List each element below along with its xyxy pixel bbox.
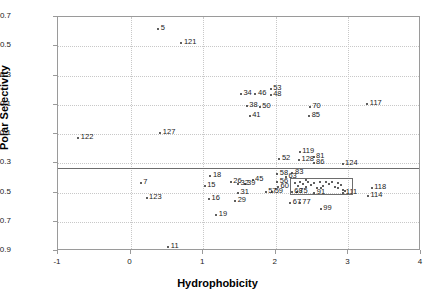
gridline-vertical [131, 17, 133, 249]
data-point [342, 163, 344, 165]
x-tick-label: 4 [405, 258, 435, 266]
data-point-label: 18 [213, 171, 221, 179]
data-point [259, 106, 261, 108]
data-point-label: 123 [149, 193, 162, 201]
gridline-horizontal [58, 163, 419, 165]
x-tick-mark [57, 250, 58, 254]
data-point [308, 115, 310, 117]
y-tick-label: -0.7 [0, 217, 11, 225]
data-point [276, 181, 278, 183]
y-tick-label: 0.1 [0, 100, 11, 108]
y-tick-label: 0.5 [0, 41, 11, 49]
y-tick-label: -0.3 [0, 158, 11, 166]
x-axis-title: Hydrophobicity [0, 277, 435, 289]
y-tick-label: 0.3 [0, 71, 11, 79]
data-point [180, 42, 182, 44]
data-point [299, 151, 301, 153]
data-point-label: 50 [262, 102, 270, 110]
reference-line [58, 168, 419, 169]
data-point [270, 94, 272, 96]
x-tick-label: 2 [260, 258, 290, 266]
data-point-label: 70 [312, 102, 320, 110]
data-point [246, 105, 248, 107]
x-tick-mark [275, 250, 276, 254]
data-point [157, 28, 159, 30]
data-point-label: 114 [371, 191, 383, 199]
data-point [230, 181, 232, 183]
data-point [320, 208, 322, 210]
data-point-label: 67 [293, 198, 301, 206]
x-tick-label: 1 [187, 258, 217, 266]
x-tick-label: 3 [332, 258, 362, 266]
gridline-horizontal [58, 76, 419, 78]
scatter-chart: Polar Selectivity Hydrophobicity 0.70.50… [0, 0, 435, 299]
x-tick-mark [347, 250, 348, 254]
highlight-box [290, 178, 352, 196]
data-point-label: 122 [81, 133, 94, 141]
x-tick-label: 0 [115, 258, 145, 266]
data-point-label: 86 [316, 158, 324, 166]
data-point-label: 7 [143, 178, 147, 186]
data-point [270, 88, 272, 90]
data-point-label: 46 [258, 89, 266, 97]
data-point-label: 117 [370, 99, 382, 107]
data-point-label: 99 [323, 204, 331, 212]
data-point [367, 195, 369, 197]
data-point [249, 115, 251, 117]
data-point [140, 182, 142, 184]
data-point-label: 15 [207, 181, 215, 189]
data-point [167, 246, 169, 248]
gridline-horizontal [58, 105, 419, 107]
data-point-label: 11 [171, 242, 179, 250]
data-point [215, 214, 217, 216]
data-point-label: 16 [212, 194, 220, 202]
data-point-label: 41 [252, 111, 260, 119]
gridline-horizontal [58, 134, 419, 136]
data-point [237, 192, 239, 194]
data-point-label: 127 [163, 128, 176, 136]
data-point-label: 48 [273, 90, 281, 98]
gridline-horizontal [58, 46, 419, 48]
x-tick-mark [202, 250, 203, 254]
y-tick-label: 0.7 [0, 12, 11, 20]
data-point [240, 93, 242, 95]
data-point [208, 198, 210, 200]
data-point [265, 191, 267, 193]
x-tick-label: -1 [42, 258, 72, 266]
data-point [254, 93, 256, 95]
data-point [289, 202, 291, 204]
data-point [204, 185, 206, 187]
data-point [309, 106, 311, 108]
data-point-label: 121 [184, 38, 197, 46]
data-point-label: 128 [302, 155, 315, 163]
data-point-label: 29 [238, 196, 246, 204]
plot-area: 5121122127344653483850417085117119128818… [57, 16, 420, 250]
gridline-vertical [203, 17, 205, 249]
data-point-label: 52 [282, 154, 290, 162]
data-point [234, 200, 236, 202]
y-tick-label: -0.5 [0, 188, 11, 196]
data-point-label: 34 [243, 89, 251, 97]
data-point-label: 124 [345, 159, 358, 167]
data-point-label: 85 [312, 111, 320, 119]
data-point-label: 45 [255, 175, 263, 183]
data-point-label: 77 [302, 198, 310, 206]
data-point [146, 197, 148, 199]
data-point-label: 59 [275, 187, 283, 195]
data-point [371, 187, 373, 189]
x-tick-mark [420, 250, 421, 254]
data-point [77, 137, 79, 139]
data-point [278, 158, 280, 160]
data-point [276, 173, 278, 175]
y-tick-label: -0.9 [0, 246, 11, 254]
data-point-label: 5 [161, 24, 165, 32]
gridline-vertical [348, 17, 350, 249]
gridline-vertical [276, 17, 278, 249]
data-point-label: 38 [249, 101, 257, 109]
data-point [298, 159, 300, 161]
data-point-label: 19 [219, 210, 227, 218]
gridline-horizontal [58, 222, 419, 224]
data-point [209, 175, 211, 177]
y-tick-label: -0.1 [0, 129, 11, 137]
x-tick-mark [130, 250, 131, 254]
